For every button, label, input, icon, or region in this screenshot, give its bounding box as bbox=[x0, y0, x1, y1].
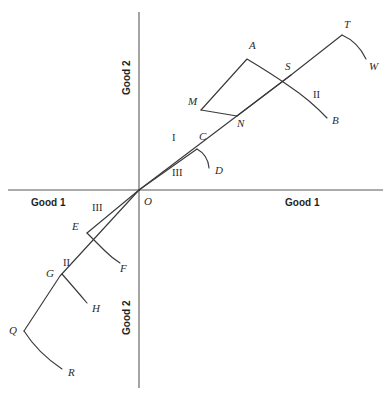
region-III-lower: III bbox=[92, 202, 103, 213]
point-S: S bbox=[285, 60, 291, 72]
ray-O-to-T bbox=[139, 35, 342, 190]
x-left-axis-label: Good 1 bbox=[31, 197, 66, 208]
x-right-axis-label: Good 1 bbox=[285, 197, 320, 208]
curve-M-A-S-B bbox=[201, 59, 327, 118]
segment-M-to-N bbox=[201, 110, 237, 116]
diagram-canvas: Good 1 Good 1 Good 2 Good 2 I III II III… bbox=[0, 0, 391, 398]
point-W: W bbox=[369, 60, 379, 72]
region-I: I bbox=[172, 132, 176, 143]
point-F: F bbox=[119, 262, 127, 274]
point-Q: Q bbox=[9, 324, 17, 336]
point-R: R bbox=[67, 366, 75, 378]
point-B: B bbox=[332, 114, 339, 126]
region-II-upper: II bbox=[313, 89, 320, 100]
point-N: N bbox=[236, 117, 245, 129]
segment-N-to-S bbox=[237, 75, 291, 116]
region-III-upper: III bbox=[172, 167, 183, 178]
y-top-axis-label: Good 2 bbox=[121, 60, 132, 95]
curve-C-to-D bbox=[197, 149, 209, 168]
ray-O-to-C bbox=[139, 149, 197, 190]
region-II-lower: II bbox=[63, 257, 70, 268]
curve-T-to-W bbox=[342, 35, 366, 59]
point-M: M bbox=[187, 95, 198, 107]
point-G: G bbox=[46, 267, 54, 279]
curve-G-to-H bbox=[62, 274, 87, 303]
point-T: T bbox=[344, 18, 351, 30]
y-bottom-axis-label: Good 2 bbox=[121, 300, 132, 335]
point-H: H bbox=[91, 302, 101, 314]
point-O: O bbox=[144, 195, 152, 207]
point-C: C bbox=[199, 130, 207, 142]
point-D: D bbox=[214, 164, 223, 176]
curve-Q-to-R bbox=[24, 331, 62, 369]
point-E: E bbox=[71, 220, 79, 232]
offer-curve-figure: Good 1 Good 1 Good 2 Good 2 I III II III… bbox=[0, 0, 391, 398]
point-A: A bbox=[248, 39, 256, 51]
curve-E-to-F bbox=[87, 233, 120, 263]
